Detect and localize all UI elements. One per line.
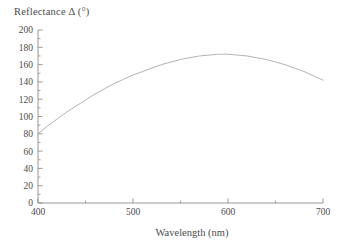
x-tick-label: 500 <box>126 207 141 217</box>
y-tick-label: 40 <box>24 164 34 174</box>
x-axis-label-wrap: Wavelength (nm) <box>0 227 348 238</box>
y-tick-group: 020406080100120140160180200 <box>19 25 43 208</box>
x-tick-label: 400 <box>31 207 46 217</box>
x-tick-label: 700 <box>316 207 331 217</box>
data-series-line <box>38 54 323 134</box>
y-tick-label: 60 <box>24 147 34 157</box>
y-tick-label: 100 <box>19 112 34 122</box>
y-tick-label: 20 <box>24 181 34 191</box>
y-tick-label: 80 <box>24 129 34 139</box>
y-tick-label: 180 <box>19 43 34 53</box>
reflectance-chart-figure: Reflectance Δ (°) 0204060801001201401601… <box>0 0 348 248</box>
chart-canvas: 020406080100120140160180200 400500600700 <box>0 0 348 248</box>
data-series-group <box>38 54 323 134</box>
y-tick-label: 120 <box>19 95 34 105</box>
y-tick-label: 160 <box>19 60 34 70</box>
x-axis-label: Wavelength (nm) <box>156 227 229 238</box>
x-tick-group: 400500600700 <box>31 199 331 218</box>
chart-axes <box>38 30 323 203</box>
x-tick-label: 600 <box>221 207 236 217</box>
y-tick-label: 200 <box>19 25 34 35</box>
y-tick-label: 140 <box>19 77 34 87</box>
